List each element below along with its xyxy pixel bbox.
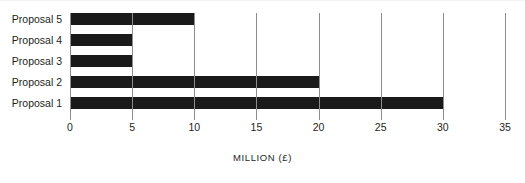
gridline [319,13,320,114]
x-axis-tick [443,114,444,120]
gridline [381,13,382,114]
x-axis-tick-label: 20 [299,121,339,134]
category-label: Proposal 1 [12,97,62,109]
x-axis-tick [256,114,257,120]
x-axis-tick-label: 15 [236,121,276,134]
bar-chart: Proposal 5 Proposal 4 Proposal 3 Proposa… [0,0,525,183]
plot-area [70,13,505,114]
x-axis-tick-label: 35 [485,121,525,134]
x-axis-tick-label: 5 [112,121,152,134]
category-axis-labels: Proposal 5 Proposal 4 Proposal 3 Proposa… [0,13,66,114]
category-label: Proposal 5 [12,13,62,25]
top-edge-artifact [0,0,525,1]
x-axis-tick [132,114,133,120]
x-axis-tick-label: 25 [361,121,401,134]
category-label: Proposal 2 [12,76,62,88]
gridline [443,13,444,114]
x-axis-tick [381,114,382,120]
gridline [505,13,506,114]
category-label: Proposal 4 [12,34,62,46]
x-axis-tick-label: 30 [423,121,463,134]
x-axis-tick [319,114,320,120]
gridline [194,13,195,114]
x-axis-title: MILLION (£) [0,152,525,163]
x-axis-tick-label: 0 [50,121,90,134]
gridline [256,13,257,114]
x-axis-tick [194,114,195,120]
bar [70,55,132,67]
gridline [70,13,71,114]
x-axis-tick-label: 10 [174,121,214,134]
x-axis-tick [505,114,506,120]
gridline [132,13,133,114]
category-label: Proposal 3 [12,55,62,67]
bar [70,34,132,46]
x-axis-tick [70,114,71,120]
